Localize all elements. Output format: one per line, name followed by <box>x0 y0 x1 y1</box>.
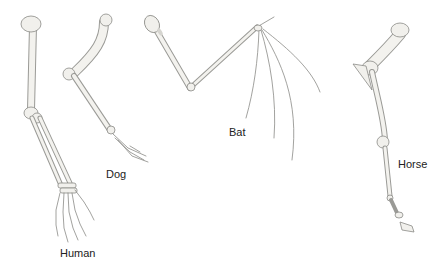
human-arm-skeleton <box>21 16 94 242</box>
horse-cannon-bone <box>385 148 393 201</box>
label-dog: Dog <box>106 168 126 180</box>
label-bat: Bat <box>229 126 246 138</box>
bat-forearm <box>187 27 257 91</box>
horse-humerus <box>353 23 409 90</box>
human-humerus <box>21 16 42 123</box>
dog-humerus <box>63 14 112 80</box>
dog-paw <box>113 134 148 162</box>
bat-humerus <box>141 13 190 88</box>
human-hand <box>56 190 94 242</box>
dog-leg-skeleton <box>63 14 148 162</box>
label-horse: Horse <box>398 158 427 170</box>
human-wrist <box>58 183 77 193</box>
forelimb-comparison-figure <box>0 0 443 269</box>
horse-hoof <box>391 200 414 232</box>
label-human: Human <box>60 247 95 259</box>
dog-forearm <box>74 76 115 134</box>
bat-digits <box>246 17 320 160</box>
horse-leg-skeleton <box>353 23 414 232</box>
horse-forearm <box>372 72 389 148</box>
human-forearm <box>32 118 70 183</box>
